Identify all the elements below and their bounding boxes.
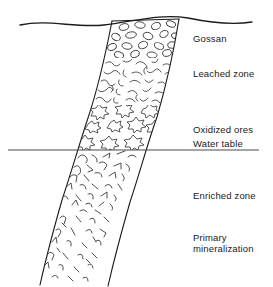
label-primary-mineralization-line2: mineralization xyxy=(193,243,254,255)
label-gossan: Gossan xyxy=(193,33,227,45)
label-enriched-zone: Enriched zone xyxy=(193,190,256,202)
gossan-texture-ellipses xyxy=(107,20,182,60)
label-water-table: Water table xyxy=(193,138,243,150)
ground-surface-line xyxy=(20,17,252,26)
label-leached-zone: Leached zone xyxy=(193,68,255,80)
vein-right-edge xyxy=(108,19,179,286)
label-primary-mineralization-line1: Primary xyxy=(193,232,227,244)
primary-mineralization-texture-hooks xyxy=(44,216,109,281)
enriched-zone-texture-hooks xyxy=(62,151,136,214)
geological-cross-section-figure: Gossan Leached zone Oxidized ores Water … xyxy=(0,0,273,287)
leached-zone-texture-squiggles xyxy=(96,59,172,103)
oxidized-ores-texture-stars xyxy=(76,102,165,152)
label-oxidized-ores: Oxidized ores xyxy=(193,124,253,136)
